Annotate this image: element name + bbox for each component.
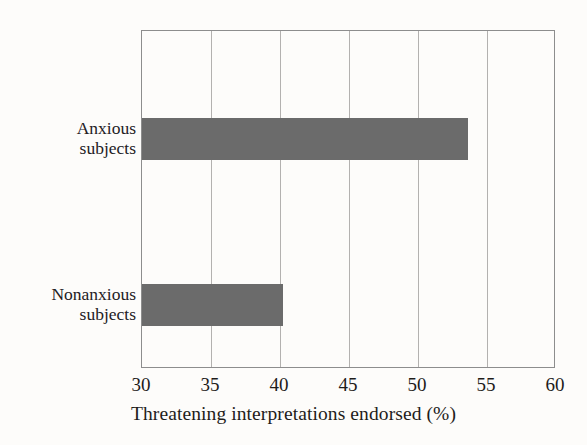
bar	[142, 284, 283, 326]
category-label-line: Nonanxious	[6, 284, 136, 304]
x-tick-label-40: 40	[249, 374, 309, 396]
x-tick-label-60: 60	[525, 374, 585, 396]
x-tick-label-35: 35	[180, 374, 240, 396]
gridline-50	[418, 31, 419, 367]
category-label-line: subjects	[6, 304, 136, 324]
x-tick-label-45: 45	[318, 374, 378, 396]
category-label-line: subjects	[6, 138, 136, 158]
category-label: Nonanxioussubjects	[6, 284, 136, 324]
category-label: Anxioussubjects	[6, 118, 136, 158]
x-tick-label-50: 50	[387, 374, 447, 396]
gridline-55	[487, 31, 488, 367]
x-tick-label-30: 30	[111, 374, 171, 396]
x-axis-title: Threatening interpretations endorsed (%)	[0, 403, 587, 425]
bar	[142, 118, 468, 160]
bar-chart-figure: AnxioussubjectsNonanxioussubjects 303540…	[0, 0, 587, 445]
plot-area	[141, 30, 555, 368]
category-label-line: Anxious	[6, 118, 136, 138]
x-tick-label-55: 55	[456, 374, 516, 396]
gridline-45	[349, 31, 350, 367]
